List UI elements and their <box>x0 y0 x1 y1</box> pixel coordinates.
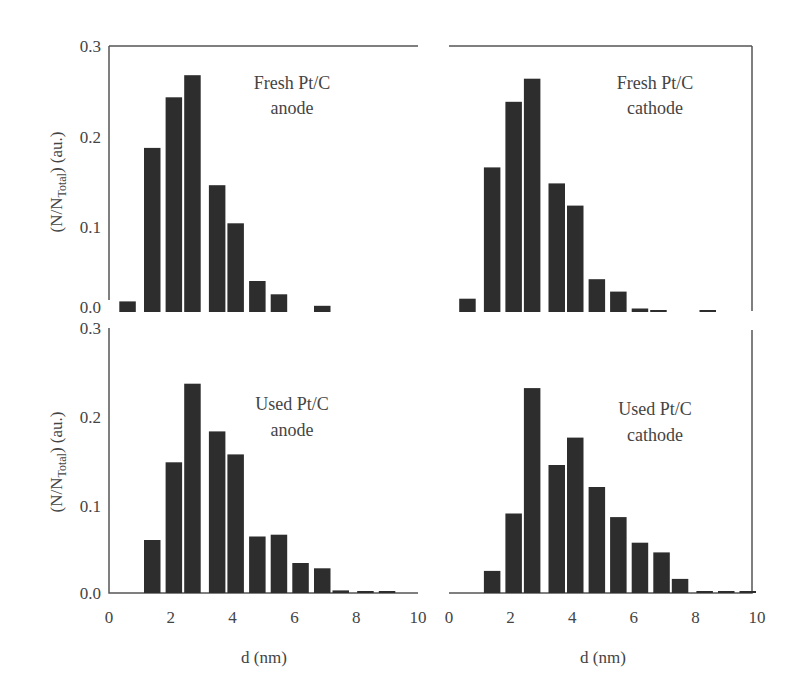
y-tick-label: 0.0 <box>80 584 101 603</box>
y-tick-label: 0.3 <box>80 319 101 338</box>
histogram-bar <box>610 292 627 312</box>
histogram-bar <box>333 590 350 593</box>
histogram-bar <box>184 384 201 593</box>
histogram-bar <box>653 552 670 593</box>
x-tick-label: 10 <box>410 608 427 627</box>
histogram-bar <box>672 579 689 593</box>
histogram-bar <box>144 540 161 593</box>
histogram-bar <box>567 206 584 312</box>
histogram-bar <box>650 310 667 312</box>
histogram-bar <box>632 543 649 593</box>
panel-title-line2: cathode <box>627 98 683 118</box>
y-ticks-top: 0.3 0.2 0.1 0.0 <box>80 37 101 317</box>
x-tick-label: 10 <box>749 608 766 627</box>
histogram-bar <box>700 310 717 312</box>
panel-title-line1: Used Pt/C <box>618 399 692 419</box>
histogram-bar <box>271 294 288 312</box>
panel-used-cathode: Used Pt/C cathode <box>449 330 756 593</box>
histogram-bar <box>314 306 331 312</box>
x-axis-title-left: d (nm) <box>241 648 287 667</box>
y-tick-label: 0.1 <box>80 497 101 516</box>
histogram-bar <box>632 309 649 313</box>
x-tick-label: 2 <box>506 608 515 627</box>
x-tick-label: 6 <box>630 608 639 627</box>
histogram-bar <box>249 281 266 312</box>
histogram-bar <box>119 301 136 312</box>
histogram-bar <box>718 591 735 593</box>
x-ticks-right: 0246810 <box>445 608 766 627</box>
x-tick-label: 0 <box>445 608 454 627</box>
histogram-bar <box>379 591 396 593</box>
histogram-bar <box>144 148 161 312</box>
svg-text:(N/NTotal) (au.): (N/NTotal) (au.) <box>47 412 69 513</box>
histogram-bar <box>166 462 183 593</box>
histogram-bar <box>209 431 226 593</box>
panel-title-line1: Fresh Pt/C <box>617 73 694 93</box>
y-tick-label: 0.2 <box>80 128 101 147</box>
histogram-bar <box>249 537 266 594</box>
histogram-bar <box>292 563 309 593</box>
y-axis-title-bottom: (N/NTotal) (au.) <box>47 412 69 513</box>
bars-used-anode <box>144 384 395 593</box>
x-axis-title-right: d (nm) <box>580 648 626 667</box>
panel-title-line2: anode <box>271 420 314 440</box>
histogram-bar <box>357 591 374 593</box>
histogram-bar <box>549 465 566 593</box>
histogram-bar <box>484 167 501 312</box>
histogram-bar <box>696 591 713 593</box>
x-ticks-left: 0246810 <box>105 608 427 627</box>
histogram-bar <box>484 571 501 593</box>
x-tick-label: 8 <box>691 608 700 627</box>
panel-title-line1: Used Pt/C <box>255 394 329 414</box>
y-tick-label: 0.1 <box>80 218 101 237</box>
x-tick-label: 4 <box>228 608 237 627</box>
histogram-bar <box>505 514 522 594</box>
y-axis-title-top: (N/NTotal) (au.) <box>47 132 69 233</box>
x-tick-label: 6 <box>290 608 299 627</box>
histogram-bar <box>740 591 757 593</box>
histogram-figure: Fresh Pt/C anode Fresh Pt/C cathode Used… <box>0 0 795 691</box>
histogram-bar <box>589 487 606 593</box>
y-tick-label: 0.0 <box>80 298 101 317</box>
histogram-bar <box>589 279 606 312</box>
histogram-bar <box>549 183 566 312</box>
panel-title-line1: Fresh Pt/C <box>254 73 331 93</box>
x-tick-label: 4 <box>568 608 577 627</box>
y-tick-label: 0.2 <box>80 408 101 427</box>
histogram-bar <box>610 517 627 593</box>
histogram-bar <box>459 299 476 312</box>
histogram-bar <box>524 79 541 312</box>
x-tick-label: 8 <box>352 608 361 627</box>
x-tick-label: 0 <box>105 608 114 627</box>
panel-fresh-cathode: Fresh Pt/C cathode <box>449 46 752 312</box>
histogram-bar <box>166 97 183 312</box>
histogram-bar <box>271 535 288 593</box>
histogram-bar <box>209 185 226 312</box>
histogram-bar <box>227 454 244 593</box>
y-ticks-bottom: 0.3 0.2 0.1 0.0 <box>80 319 101 603</box>
histogram-bar <box>227 223 244 312</box>
panel-title-line2: cathode <box>627 425 683 445</box>
histogram-bar <box>505 102 522 312</box>
histogram-bar <box>314 568 331 593</box>
histogram-bar <box>524 388 541 593</box>
panel-used-anode: Used Pt/C anode <box>109 328 418 593</box>
histogram-bar <box>184 75 201 312</box>
svg-text:(N/NTotal) (au.): (N/NTotal) (au.) <box>47 132 69 233</box>
y-tick-label: 0.3 <box>80 37 101 56</box>
panel-title-line2: anode <box>271 98 314 118</box>
x-tick-label: 2 <box>167 608 176 627</box>
panel-fresh-anode: Fresh Pt/C anode <box>109 46 418 312</box>
histogram-bar <box>567 438 584 593</box>
